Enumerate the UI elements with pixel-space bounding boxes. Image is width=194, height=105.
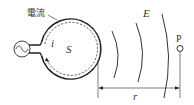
- current-symbol-label: i: [51, 38, 54, 49]
- current-leader-line: [48, 15, 57, 20]
- point-p-marker: [177, 46, 183, 52]
- current-arrow-icon: [45, 58, 50, 63]
- distance-r-arrow: [99, 86, 180, 89]
- loop-antenna-diagram: 電流 i S E P r: [0, 0, 194, 105]
- point-p-label: P: [176, 34, 182, 44]
- field-label: E: [143, 8, 150, 19]
- area-label: S: [66, 44, 72, 55]
- current-label: 電流: [27, 9, 45, 18]
- distance-label: r: [133, 91, 137, 102]
- source-leads: [29, 43, 42, 56]
- ac-source-icon: [14, 41, 30, 57]
- wavefront-arcs: [112, 14, 169, 98]
